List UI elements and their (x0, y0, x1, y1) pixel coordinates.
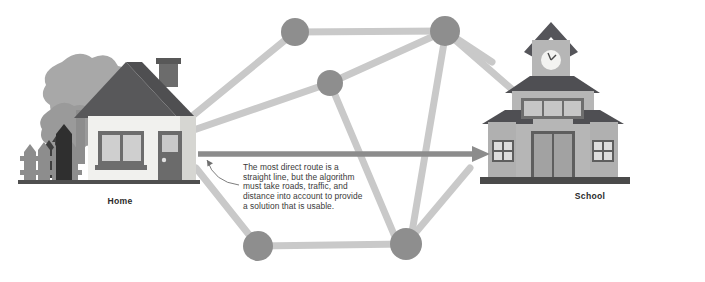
route-diagram-figure: The most direct route is a straight line… (0, 0, 705, 282)
callout-text: The most direct route is a straight line… (243, 163, 395, 212)
home-label: Home (85, 196, 155, 206)
direct-route-arrow (198, 146, 490, 162)
school-label: School (555, 191, 625, 201)
callout-leader-arrowhead (207, 160, 213, 167)
direct-route-arrow-layer (0, 0, 705, 282)
callout-line-5: a solution that is usable. (243, 202, 395, 212)
